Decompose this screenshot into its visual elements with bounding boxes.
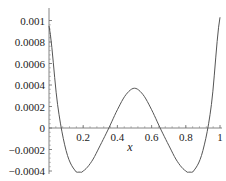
y-tick-label: −0.0004: [9, 165, 46, 177]
y-axis: 0.0010.00080.00060.00040.00020−0.0002−0.…: [9, 8, 52, 177]
y-tick-label: 0.001: [20, 15, 45, 27]
y-tick-label: −0.0002: [9, 144, 45, 156]
x-tick-label: 0.4: [111, 131, 125, 143]
x-axis: 0.20.40.60.81: [49, 125, 223, 143]
x-axis-label: x: [126, 140, 133, 154]
y-tick-label: 0.0002: [15, 101, 45, 113]
y-tick-label: 0: [40, 122, 46, 134]
y-tick-label: 0.0008: [15, 36, 46, 48]
y-tick-label: 0.0004: [15, 79, 46, 91]
x-tick-label: 1: [217, 131, 223, 143]
x-tick-label: 0.6: [145, 131, 159, 143]
x-tick-label: 0.2: [76, 131, 90, 143]
y-tick-label: 0.0006: [15, 58, 46, 70]
x-tick-label: 0.8: [179, 131, 193, 143]
data-line: [49, 17, 220, 172]
line-chart: 0.0010.00080.00060.00040.00020−0.0002−0.…: [0, 0, 226, 181]
